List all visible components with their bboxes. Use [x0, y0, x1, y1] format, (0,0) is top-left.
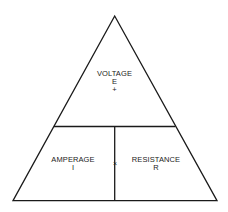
divide-operator: +: [84, 86, 145, 94]
resistance-section: RESISTANCE R: [126, 156, 186, 172]
amperage-symbol: I: [48, 164, 98, 172]
voltage-section: VOLTAGE E +: [84, 70, 145, 94]
multiply-operator: ×: [110, 160, 120, 168]
amperage-section: AMPERAGE I: [48, 156, 98, 172]
ohms-law-triangle-diagram: VOLTAGE E + AMPERAGE I × RESISTANCE R: [0, 0, 228, 212]
resistance-symbol: R: [126, 164, 186, 172]
triangle-lines: [0, 0, 228, 212]
